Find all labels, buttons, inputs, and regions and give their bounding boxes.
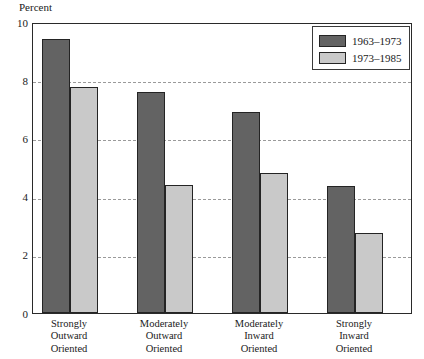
dark-gray-swatch — [319, 35, 346, 47]
x-category-label-line: Outward — [114, 330, 214, 342]
x-category-label: StronglyOutwardOriented — [19, 318, 119, 355]
y-tick-label: 10 — [4, 18, 28, 29]
x-category-label-line: Oriented — [114, 343, 214, 355]
bar — [165, 185, 193, 313]
bar — [355, 233, 383, 313]
y-tick-label: 6 — [4, 134, 28, 145]
x-category-label-line: Strongly — [304, 318, 404, 330]
y-axis-title: Percent — [19, 1, 52, 13]
chart-legend: 1963–1973 1973–1985 — [312, 26, 410, 70]
legend-label: 1973–1985 — [352, 52, 402, 64]
x-category-label-line: Moderately — [114, 318, 214, 330]
x-category-label-line: Strongly — [19, 318, 119, 330]
x-category-label: ModeratelyInwardOriented — [209, 318, 309, 355]
y-tick-label: 2 — [4, 250, 28, 261]
legend-label: 1963–1973 — [352, 35, 402, 47]
gridline — [33, 82, 411, 83]
x-category-label: StronglyInwardOriented — [304, 318, 404, 355]
y-tick-label: 8 — [4, 76, 28, 87]
x-category-label: ModeratelyOutwardOriented — [114, 318, 214, 355]
bar — [232, 112, 260, 313]
bar — [137, 92, 165, 313]
x-category-label-line: Moderately — [209, 318, 309, 330]
bar — [42, 39, 70, 313]
x-category-label-line: Inward — [304, 330, 404, 342]
bar — [327, 186, 355, 313]
bar — [260, 173, 288, 313]
legend-item: 1973–1985 — [319, 49, 409, 66]
bar-chart-figure: Percent 0246810 StronglyOutwardOrientedM… — [0, 0, 424, 359]
x-category-label-line: Outward — [19, 330, 119, 342]
x-category-label-line: Oriented — [209, 343, 309, 355]
light-gray-swatch — [319, 52, 346, 64]
bar — [70, 87, 98, 313]
x-category-label-line: Oriented — [19, 343, 119, 355]
legend-item: 1963–1973 — [319, 32, 409, 49]
y-tick-label: 4 — [4, 192, 28, 203]
x-category-label-line: Inward — [209, 330, 309, 342]
x-category-label-line: Oriented — [304, 343, 404, 355]
